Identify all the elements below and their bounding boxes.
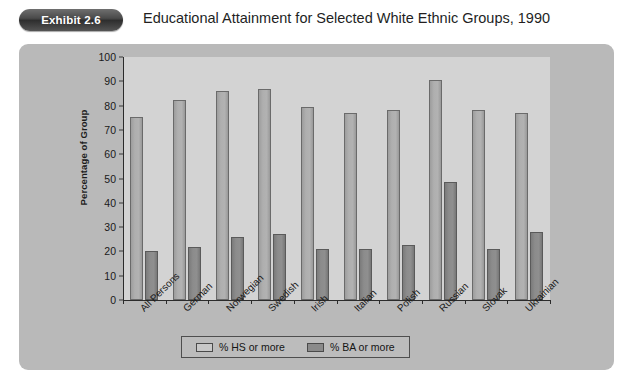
bar-hs bbox=[258, 89, 271, 300]
y-tick-label: 30 bbox=[90, 221, 116, 233]
exhibit-header: Exhibit 2.6 Educational Attainment for S… bbox=[0, 0, 633, 40]
x-tick-mark bbox=[507, 300, 508, 304]
legend-item-ba: % BA or more bbox=[307, 341, 395, 353]
y-axis-title: Percentage of Group bbox=[78, 88, 89, 228]
bar-hs bbox=[173, 100, 186, 300]
legend-swatch-hs-icon bbox=[196, 343, 213, 352]
bar-hs bbox=[216, 91, 229, 300]
x-tick-mark bbox=[166, 300, 167, 304]
bar-hs bbox=[472, 110, 485, 300]
legend-label-ba: % BA or more bbox=[330, 341, 395, 353]
bar-hs bbox=[130, 117, 143, 300]
bar-ba bbox=[444, 182, 457, 300]
y-tick-label: 0 bbox=[90, 294, 116, 306]
legend-label-hs: % HS or more bbox=[219, 341, 285, 353]
chart-legend: % HS or more % BA or more bbox=[181, 336, 410, 358]
x-tick-mark bbox=[379, 300, 380, 304]
y-tick-label: 10 bbox=[90, 270, 116, 282]
y-tick-label: 50 bbox=[90, 173, 116, 185]
bar-hs bbox=[515, 113, 528, 300]
x-tick-mark bbox=[251, 300, 252, 304]
legend-item-hs: % HS or more bbox=[196, 341, 285, 353]
y-tick-label: 80 bbox=[90, 100, 116, 112]
page-title: Educational Attainment for Selected Whit… bbox=[143, 10, 550, 26]
bar-hs bbox=[301, 107, 314, 300]
x-tick-mark bbox=[550, 300, 551, 304]
exhibit-number-badge: Exhibit 2.6 bbox=[19, 9, 123, 31]
y-tick-label: 20 bbox=[90, 245, 116, 257]
x-tick-mark bbox=[208, 300, 209, 304]
x-tick-mark bbox=[123, 300, 124, 304]
bar-hs bbox=[429, 80, 442, 300]
x-tick-mark bbox=[294, 300, 295, 304]
x-tick-mark bbox=[337, 300, 338, 304]
y-tick-label: 100 bbox=[90, 51, 116, 63]
x-tick-mark bbox=[422, 300, 423, 304]
legend-swatch-ba-icon bbox=[307, 343, 324, 352]
y-tick-label: 90 bbox=[90, 75, 116, 87]
y-tick-label: 70 bbox=[90, 124, 116, 136]
bars-layer bbox=[123, 57, 550, 300]
y-tick-label: 60 bbox=[90, 148, 116, 160]
bar-hs bbox=[344, 113, 357, 300]
y-tick-label: 40 bbox=[90, 197, 116, 209]
x-tick-mark bbox=[465, 300, 466, 304]
chart-panel: Percentage of Group 01020304050607080901… bbox=[19, 44, 614, 370]
bar-hs bbox=[387, 110, 400, 300]
